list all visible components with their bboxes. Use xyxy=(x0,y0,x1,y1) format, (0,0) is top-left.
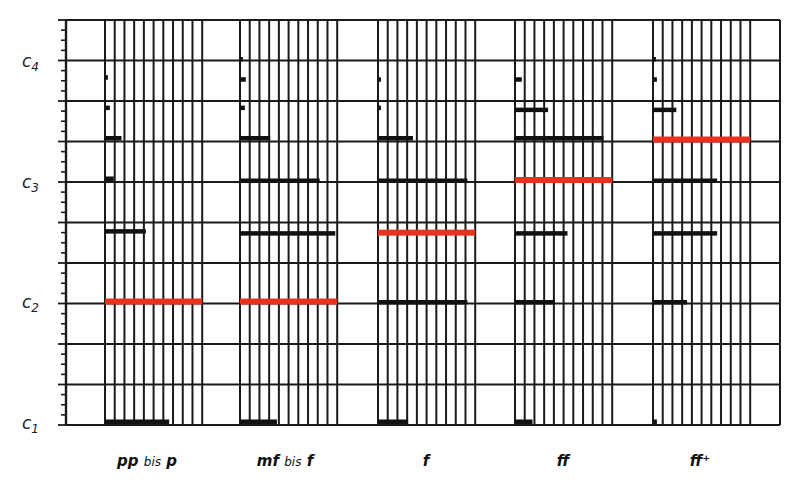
partial-bar xyxy=(515,419,532,424)
partial-bar xyxy=(653,108,676,113)
group-label-ff-plus: ff⁺ xyxy=(690,452,710,470)
partial-bar xyxy=(515,136,603,141)
partial-bar xyxy=(378,419,408,424)
y-label-c1-sub: 1 xyxy=(31,422,39,436)
partial-bar xyxy=(105,106,110,111)
partial-bar xyxy=(653,77,657,82)
highlight-bar xyxy=(515,177,612,183)
partial-bar xyxy=(378,179,467,184)
y-label-c1: c1 xyxy=(22,413,39,436)
y-label-c2-text: c xyxy=(22,292,31,312)
group-label-main: ff⁺ xyxy=(690,452,710,470)
partial-bar xyxy=(378,106,381,111)
group-label-main: f xyxy=(423,452,430,470)
partial-bar xyxy=(653,231,717,236)
highlight-bar xyxy=(240,299,337,305)
partial-bar xyxy=(105,419,169,424)
partial-bar xyxy=(653,57,656,62)
partial-bar xyxy=(653,300,687,305)
y-label-c3-sub: 3 xyxy=(31,181,39,195)
y-label-c4: c4 xyxy=(22,51,39,74)
partial-bar xyxy=(515,108,548,113)
partial-bar xyxy=(240,419,277,424)
partial-bar xyxy=(105,136,122,141)
group-label-connector: bis xyxy=(284,455,301,469)
partial-bar xyxy=(378,77,381,82)
partial-bar xyxy=(653,419,657,424)
group-label-f: f xyxy=(423,452,430,470)
highlight-bar xyxy=(653,137,750,143)
group-label-pp-bis-p: pp bis p xyxy=(117,452,177,470)
group-label-tail: p xyxy=(166,452,177,470)
group-label-mf-bis-f: mf bis f xyxy=(257,452,313,470)
y-label-c1-text: c xyxy=(22,413,31,433)
partial-bar xyxy=(515,231,567,236)
y-label-c4-text: c xyxy=(22,51,31,71)
group-label-main: ff xyxy=(557,452,570,470)
group-label-tail: f xyxy=(307,452,314,470)
partial-bar xyxy=(378,136,413,141)
y-label-c2-sub: 2 xyxy=(31,301,39,315)
y-label-c3: c3 xyxy=(22,172,39,195)
partial-bar xyxy=(240,179,320,184)
partial-bar xyxy=(515,77,522,82)
y-label-c3-text: c xyxy=(22,172,31,192)
partial-bar xyxy=(105,229,146,234)
highlight-bar xyxy=(378,230,475,236)
partial-bar xyxy=(240,136,270,141)
y-label-c4-sub: 4 xyxy=(31,60,39,74)
partial-bar xyxy=(653,179,717,184)
partial-bar xyxy=(105,176,114,181)
group-label-ff: ff xyxy=(557,452,570,470)
partial-bar xyxy=(240,106,245,111)
y-label-c2: c2 xyxy=(22,292,39,315)
partial-bar xyxy=(240,77,246,82)
partial-bar xyxy=(240,57,243,62)
group-label-main: mf xyxy=(257,452,279,470)
spectrum-chart xyxy=(0,0,807,491)
partial-bar xyxy=(515,300,555,305)
partial-bar xyxy=(105,75,108,80)
group-label-main: pp xyxy=(117,452,138,470)
partial-bar xyxy=(378,300,467,305)
group-label-connector: bis xyxy=(144,455,161,469)
partial-bar xyxy=(240,231,335,236)
highlight-bar xyxy=(105,299,202,305)
